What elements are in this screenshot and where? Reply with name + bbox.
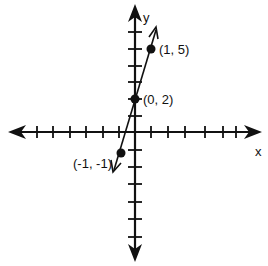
y-axis-label: y (143, 10, 150, 25)
point-label: (-1, -1) (73, 156, 112, 171)
point-label: (1, 5) (159, 42, 189, 57)
x-axis-label: x (255, 144, 262, 159)
point-1-5: (1, 5) (147, 42, 190, 57)
point-label: (0, 2) (143, 92, 173, 107)
coordinate-plane: x y (1, 5) (0, 0, 268, 266)
